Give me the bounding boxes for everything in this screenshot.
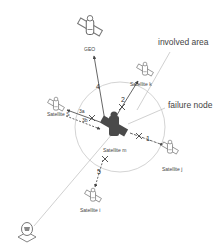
label-satellite-s: Satellite S xyxy=(47,112,70,117)
ground-station-icon xyxy=(18,223,36,243)
link-label-2: 2 xyxy=(121,96,125,103)
satellite-j-icon xyxy=(162,140,179,154)
satellite-s-icon xyxy=(48,97,65,111)
satellite-i-icon xyxy=(85,188,102,202)
ground-link xyxy=(34,133,113,226)
failure-node-callout-line xyxy=(128,108,165,124)
label-satellite-m: Satellite m xyxy=(103,148,126,153)
satellite-k-icon xyxy=(137,62,154,76)
callout-failure-node: failure node xyxy=(168,101,212,110)
link-label-3b: 3b xyxy=(82,118,88,123)
link-label-3a: 3a xyxy=(79,109,85,114)
satellite-network-diagram: GEO Satellite k Satellite S Satellite m … xyxy=(0,0,219,252)
callout-involved-area: involved area xyxy=(158,38,209,47)
link-label-4: 5 xyxy=(97,168,101,175)
label-satellite-i: Satellite i xyxy=(80,208,100,213)
label-satellite-j: Satellite j xyxy=(162,167,182,172)
link-label-1: 1 xyxy=(146,135,150,142)
link-label-5: 4 xyxy=(96,83,100,90)
satellite-geo-icon xyxy=(78,16,103,36)
label-satellite-k: Satellite k xyxy=(130,82,152,87)
label-geo: GEO xyxy=(84,47,95,52)
